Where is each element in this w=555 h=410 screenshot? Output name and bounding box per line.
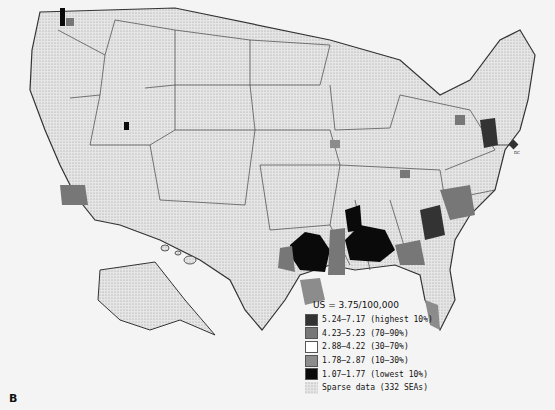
alaska — [98, 262, 215, 335]
legend-swatch-highest — [305, 314, 318, 326]
legend-swatch-30-70 — [305, 341, 318, 353]
legend-item: 1.78–2.87 (10–30%) — [305, 354, 455, 368]
legend-label: 1.07–1.77 (lowest 10%) — [322, 370, 428, 379]
legend-title: US = 3.75/100,000 — [313, 300, 455, 310]
legend-item: 4.23–5.23 (70–90%) — [305, 327, 455, 341]
legend-label: 4.23–5.23 (70–90%) — [322, 329, 409, 338]
us-choropleth-map — [0, 0, 555, 410]
legend-swatch-10-30 — [305, 355, 318, 367]
legend-item: 5.24–7.17 (highest 10%) — [305, 313, 455, 327]
panel-label: B — [9, 392, 17, 405]
legend-swatch-70-90 — [305, 327, 318, 339]
legend-label: Sparse data (332 SEAs) — [322, 383, 428, 392]
legend-item: Sparse data (332 SEAs) — [305, 381, 455, 395]
legend-label: 5.24–7.17 (highest 10%) — [322, 315, 433, 324]
legend-label: 1.78–2.87 (10–30%) — [322, 356, 409, 365]
legend-item: 2.88–4.22 (30–70%) — [305, 340, 455, 354]
dc-label: DC — [514, 150, 520, 155]
legend-label: 2.88–4.22 (30–70%) — [322, 342, 409, 351]
legend: US = 3.75/100,000 5.24–7.17 (highest 10%… — [305, 300, 455, 395]
legend-swatch-lowest — [305, 368, 318, 380]
legend-swatch-sparse — [305, 382, 318, 394]
legend-item: 1.07–1.77 (lowest 10%) — [305, 367, 455, 381]
